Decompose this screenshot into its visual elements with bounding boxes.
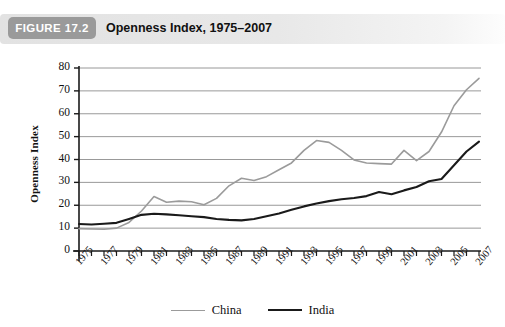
series-line-china [79,78,479,229]
legend-label: China [212,303,242,318]
figure-number-badge: FIGURE 17.2 [8,17,96,39]
line-plot [0,50,505,327]
series-line-india [79,142,479,225]
figure-title: Openness Index, 1975–2007 [106,17,272,39]
legend-label: India [309,303,335,318]
legend-item-china: China [171,303,242,318]
chart-area: Openness Index 01020304050607080 1975197… [0,50,505,327]
legend-item-india: India [268,303,335,318]
legend-swatch-china [171,310,205,311]
chart-legend: ChinaIndia [0,300,505,320]
legend-swatch-india [268,309,302,311]
